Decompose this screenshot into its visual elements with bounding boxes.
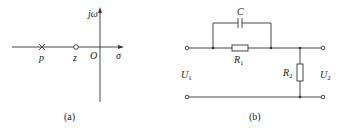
capacitor-label: C — [237, 6, 244, 17]
output-voltage-label: U2 — [320, 69, 331, 82]
resistor-r2-label: R2 — [282, 67, 293, 80]
real-axis-label: σ — [116, 50, 122, 61]
input-terminal-top-icon — [185, 46, 189, 50]
zero-label: z — [72, 52, 77, 63]
rc-circuit — [185, 18, 325, 99]
imaginary-axis-label: jω — [86, 8, 98, 19]
pole-zero-plot — [12, 7, 124, 102]
junction-dot — [299, 96, 302, 99]
junction-dot — [212, 47, 215, 50]
figure-canvas: jω σ O p z (a) C R1 R2 — [0, 0, 340, 128]
caption-a: (a) — [64, 111, 75, 123]
pole-label: p — [38, 52, 44, 63]
input-terminal-bottom-icon — [185, 95, 189, 99]
resistor-r1-label: R1 — [233, 54, 244, 67]
junction-dot — [299, 47, 302, 50]
real-axis-arrow-icon — [118, 45, 124, 49]
junction-dot — [270, 47, 273, 50]
capacitor-c-icon — [238, 18, 242, 28]
zero-marker-icon — [74, 45, 79, 50]
resistor-r2-icon — [297, 64, 303, 81]
wire-cap-right — [242, 23, 271, 48]
wire-cap-left — [213, 23, 238, 48]
input-voltage-label: U1 — [181, 69, 192, 82]
origin-label: O — [90, 50, 97, 61]
resistor-r1-icon — [232, 45, 248, 51]
caption-b: (b) — [249, 111, 261, 123]
output-terminal-top-icon — [321, 46, 325, 50]
output-terminal-bottom-icon — [321, 95, 325, 99]
imaginary-axis-arrow-icon — [98, 7, 102, 13]
